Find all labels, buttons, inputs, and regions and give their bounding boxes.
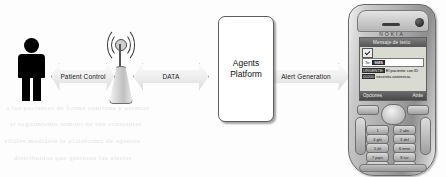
diagram-canvas: a los pacientes de forma continua y perm… xyxy=(0,0,446,177)
sms-recipient-row: To: SMS xyxy=(362,58,424,67)
patient-torso xyxy=(18,54,45,78)
sms-message-text: El paciente con ID xyxy=(386,68,418,73)
phone-chin xyxy=(359,164,427,172)
phone-keypad: 1 2 abc 4 ghi 3 def 5 jkl 6 mno 7 pqrs 8… xyxy=(355,103,429,169)
agents-platform-label-line2: Platform xyxy=(230,69,262,80)
sms-to-value: SMS xyxy=(372,60,385,65)
wireless-antenna-icon xyxy=(96,30,144,100)
patient-leg-left xyxy=(22,76,30,101)
agents-platform-box: Agents Platform xyxy=(218,16,274,122)
sms-message-text2: necesita asistencia. xyxy=(376,74,411,79)
background-ghost-line: a los pacientes de forma continua y perm… xyxy=(6,104,149,112)
sms-message-urgent: URGENTE: xyxy=(362,68,385,73)
key-softkey-left[interactable] xyxy=(357,105,379,115)
key-call[interactable] xyxy=(355,117,366,155)
patient-leg-right xyxy=(33,76,41,101)
sms-to-label: To: xyxy=(365,60,370,65)
sms-title: Mensaje de texto xyxy=(360,38,426,47)
mobile-phone: NOKIA Mensaje de texto To: SMS URGENTE: … xyxy=(348,4,436,176)
agents-platform-label: Agents Platform xyxy=(230,58,262,79)
background-ghost-line: distribuidos que gestiona las alertas xyxy=(14,154,132,162)
key-dpad[interactable] xyxy=(381,104,406,125)
antenna-tip xyxy=(115,39,127,51)
background-ghost-line: el seguimiento remoto de sus constantes xyxy=(10,120,142,128)
key-softkey-right[interactable] xyxy=(407,105,429,115)
antenna-base xyxy=(109,66,133,104)
sms-message-id: 00200 xyxy=(362,74,375,79)
agents-platform-label-line1: Agents xyxy=(230,58,262,69)
phone-screen: Mensaje de texto To: SMS URGENTE: El pac… xyxy=(359,37,427,101)
phone-speaker xyxy=(382,23,400,26)
patient-figure-icon xyxy=(12,38,50,100)
arrow-alert-generation-label: Alert Generation xyxy=(281,73,331,80)
softkey-right-label: Atrás xyxy=(412,93,423,98)
phone-camera-icon xyxy=(415,18,424,27)
sms-message-body: URGENTE: El paciente con ID 00200 necesi… xyxy=(362,68,424,80)
key-end[interactable] xyxy=(420,117,431,155)
arrow-patient-control-label: Patient Control xyxy=(60,73,105,80)
patient-head xyxy=(24,38,39,53)
phone-softkey-bar: Opciones Atrás xyxy=(360,91,426,100)
background-ghost-line: vitales mediante la plataforma de agente… xyxy=(4,137,140,145)
envelope-check-icon xyxy=(362,48,373,58)
arrow-data: DATA xyxy=(133,63,209,90)
phone-earpiece-panel xyxy=(357,10,429,32)
arrow-data-label: DATA xyxy=(163,73,180,80)
arrow-alert-generation: Alert Generation xyxy=(262,63,350,90)
softkey-left-label: Opciones xyxy=(363,93,382,98)
